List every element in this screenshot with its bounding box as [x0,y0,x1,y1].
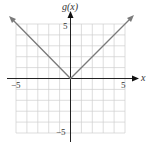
x-axis-label: x [141,73,145,83]
y-axis-label: g(x) [62,2,78,12]
curve-g [12,18,131,79]
y-tick-5: 5 [63,22,68,31]
x-tick-neg5: −5 [11,81,21,90]
x-tick-5: 5 [121,81,126,90]
x-axis-arrow-icon [132,76,139,82]
y-tick-neg5: −5 [56,128,66,137]
y-axis-arrow-icon [68,11,74,18]
graph-canvas [0,0,150,149]
